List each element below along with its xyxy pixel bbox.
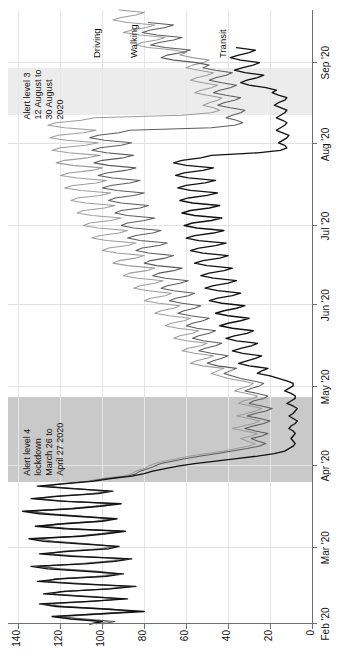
rotated-chart-canvas: 020406080100120140 Feb '20Mar '20Apr '20… (0, 0, 349, 662)
time-tick-label: Aug '20 (320, 122, 331, 166)
time-tick-label: Jul '20 (320, 204, 331, 248)
value-tick-label: 140 (11, 630, 22, 658)
time-tick (312, 547, 317, 548)
value-tick (270, 624, 271, 629)
alert-level-4-annotation: Alert level 4 lockdown March 26 to April… (22, 386, 66, 476)
time-tick-label: Apr '20 (320, 444, 331, 488)
value-tick-label: 80 (137, 630, 148, 658)
series-label-walking: Walking (128, 25, 139, 58)
value-tick-label: 40 (221, 630, 232, 658)
value-tick (60, 624, 61, 629)
time-tick (312, 623, 317, 624)
alert-level-3-annotation: Alert level 3 12 August to 30 August 202… (22, 27, 66, 119)
value-tick (102, 624, 103, 629)
value-tick (312, 624, 313, 629)
value-tick (228, 624, 229, 629)
value-tick (144, 624, 145, 629)
time-tick (312, 465, 317, 466)
time-tick (312, 386, 317, 387)
time-tick-label: Feb '20 (320, 602, 331, 646)
time-tick (312, 62, 317, 63)
time-tick (312, 225, 317, 226)
value-tick (186, 624, 187, 629)
time-tick (312, 143, 317, 144)
value-tick (18, 624, 19, 629)
value-tick-label: 20 (263, 630, 274, 658)
series-label-transit: Transit (217, 29, 228, 58)
series-label-driving: Driving (91, 28, 102, 58)
time-tick-label: Mar '20 (320, 526, 331, 570)
walking-line (31, 23, 272, 624)
time-axis-line (312, 10, 313, 624)
value-axis-line (8, 623, 312, 624)
value-tick-label: 120 (53, 630, 64, 658)
value-tick-label: 0 (305, 630, 316, 658)
time-tick-label: Jun '20 (320, 283, 331, 327)
value-tick-label: 60 (179, 630, 190, 658)
chart-figure: 020406080100120140 Feb '20Mar '20Apr '20… (0, 0, 349, 662)
value-tick-label: 100 (95, 630, 106, 658)
time-tick (312, 304, 317, 305)
time-tick-label: May '20 (320, 365, 331, 409)
time-tick-label: Sep '20 (320, 41, 331, 85)
transit-line (23, 48, 298, 624)
